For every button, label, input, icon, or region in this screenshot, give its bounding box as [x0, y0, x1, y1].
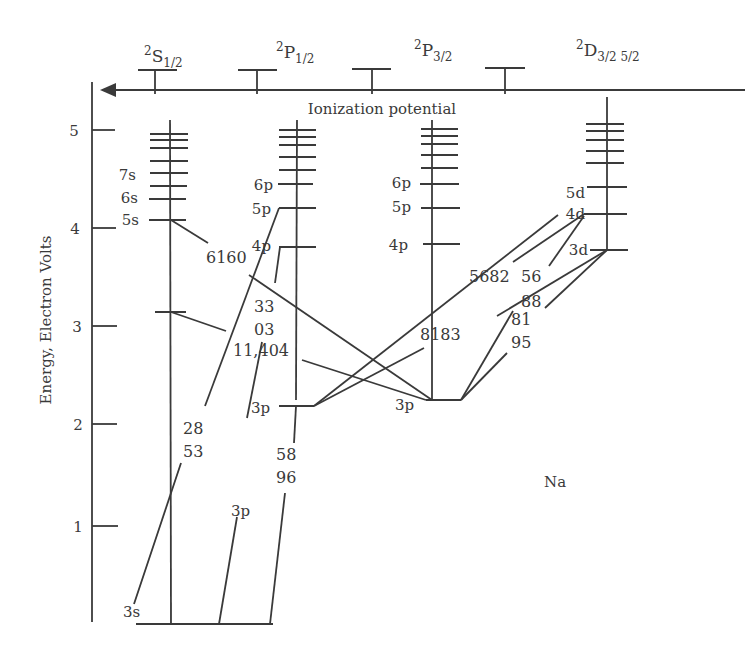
wavelength-11404: 11,404	[233, 341, 289, 360]
wavelength-5682: 5682	[469, 267, 510, 286]
header-s12: 2S1/2	[144, 44, 183, 70]
wavelength-5896-a: 58	[276, 445, 296, 464]
y-tick-5: 5	[69, 122, 79, 140]
d-levels: 5d 4d 3d	[566, 124, 628, 259]
energy-level-diagram: 5 4 3 2 1 Energy, Electron Volts Ionizat…	[0, 0, 754, 659]
s-levels: 7s 6s 5s	[119, 134, 188, 312]
y-tick-1: 1	[73, 518, 83, 536]
p32-levels: 6p 5p 4p	[389, 129, 460, 254]
level-7s: 7s	[119, 166, 136, 184]
y-axis: 5 4 3 2 1 Energy, Electron Volts	[37, 82, 118, 622]
wavelength-3303-b: 03	[254, 320, 274, 339]
wavelength-2853-b: 53	[183, 442, 203, 461]
y-axis-label: Energy, Electron Volts	[37, 236, 55, 405]
header-p32: 2P3/2	[414, 38, 452, 64]
wavelength-2853-a: 28	[183, 419, 203, 438]
level-3p-lower: 3p	[231, 502, 250, 520]
level-p32-4p: 4p	[389, 236, 408, 254]
element-label: Na	[544, 473, 566, 491]
wavelength-3303-a: 33	[254, 297, 274, 316]
wavelength-8195-b: 95	[511, 333, 531, 352]
level-p12-6p: 6p	[254, 176, 273, 194]
wavelength-8183: 8183	[420, 325, 461, 344]
level-3d: 3d	[569, 241, 589, 259]
y-tick-4: 4	[70, 220, 80, 238]
header-d: 2D3/2 5/2	[576, 38, 640, 64]
level-5d: 5d	[566, 184, 586, 202]
y-tick-3: 3	[72, 318, 82, 336]
level-3s: 3s	[123, 603, 140, 621]
wavelength-6160: 6160	[206, 248, 247, 267]
level-p32-6p: 6p	[392, 174, 411, 192]
wavelength-5688-b: 88	[521, 292, 541, 311]
ionization-potential-line: Ionization potential	[100, 83, 745, 118]
ionization-label: Ionization potential	[308, 100, 457, 118]
column-lines	[155, 68, 607, 625]
column-headers: 2S1/2 2P1/2 2P3/2 2D3/2 5/2	[138, 38, 640, 70]
p12-levels: 6p 5p 4p	[252, 130, 316, 255]
level-6s: 6s	[121, 189, 138, 207]
ground-levels: 3s 3p 3p	[123, 396, 461, 624]
level-p32-3p: 3p	[395, 396, 414, 414]
level-p12-3p: 3p	[251, 399, 270, 417]
level-5s: 5s	[122, 211, 139, 229]
arrow-left-icon	[100, 83, 116, 97]
wavelength-5896-b: 96	[276, 468, 296, 487]
level-p12-5p: 5p	[252, 200, 271, 218]
wavelength-5688-a: 56	[521, 267, 541, 286]
y-tick-2: 2	[73, 416, 83, 434]
level-p32-5p: 5p	[392, 198, 411, 216]
header-p12: 2P1/2	[276, 40, 314, 66]
level-p12-4p: 4p	[252, 237, 271, 255]
wavelength-8195-a: 81	[511, 310, 531, 329]
